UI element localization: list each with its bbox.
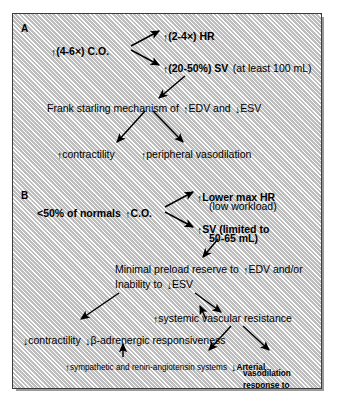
diagram-panel: A ↑(4-6×) C.O. ↑(2-4×) HR ↑(20-50%) SV (… [12, 13, 322, 389]
arrow-b-co-hr [165, 192, 193, 207]
arrow-a-frank-vasodilation [153, 111, 183, 142]
arrow-b-co-sv [165, 212, 193, 227]
node-b-contractility: ↓contractility ↓β-adrenergic responsiven… [23, 331, 226, 347]
node-b-arterial-line3: response to [243, 382, 289, 389]
panel-letter-b: B [21, 191, 28, 201]
arrow-a-co-hr [131, 31, 159, 46]
node-b-sympathetic: ↑sympathetic and renin-angiotensin syste… [65, 357, 227, 373]
node-a-contractility: ↑contractility [57, 145, 115, 161]
stroke-volume-note: (at least 100 mL) [233, 62, 312, 74]
node-a-stroke-volume: ↑(20-50%) SV (at least 100 mL) [163, 59, 312, 75]
node-b-arterial-line2: vasodilation [243, 370, 291, 378]
node-b-systemic-vascular-resistance: ↑systemic vascular resistance [153, 309, 292, 325]
panel-letter-a: A [21, 24, 28, 34]
node-b-cardiac-output: <50% of normals ↑C.O. [37, 204, 152, 220]
arrow-b-svr-arterial [243, 326, 269, 350]
node-b-stroke-volume-line2: 50-65 mL) [209, 233, 258, 244]
node-a-peripheral-vasodilation: ↑peripheral vasodilation [141, 145, 251, 161]
node-b-lower-max-hr-note: (low workload) [209, 201, 277, 212]
node-a-frank-starling: Frank starling mechanism of ↑EDV and ↓ES… [47, 99, 261, 115]
node-b-preload-line2: Inability to ↓ESV [115, 275, 193, 291]
arrow-a-sv-frank [159, 76, 185, 98]
arrow-a-co-sv [131, 50, 159, 65]
node-a-cardiac-output: ↑(4-6×) C.O. [51, 42, 109, 58]
arrow-b-preload-contractility [81, 293, 119, 319]
arrow-a-frank-contractility [117, 111, 145, 142]
figure-canvas: A ↑(4-6×) C.O. ↑(2-4×) HR ↑(20-50%) SV (… [0, 0, 338, 407]
node-b-preload-line1: Minimal preload reserve to ↑EDV and/or [115, 260, 303, 276]
node-a-heart-rate: ↑(2-4×) HR [163, 27, 215, 43]
